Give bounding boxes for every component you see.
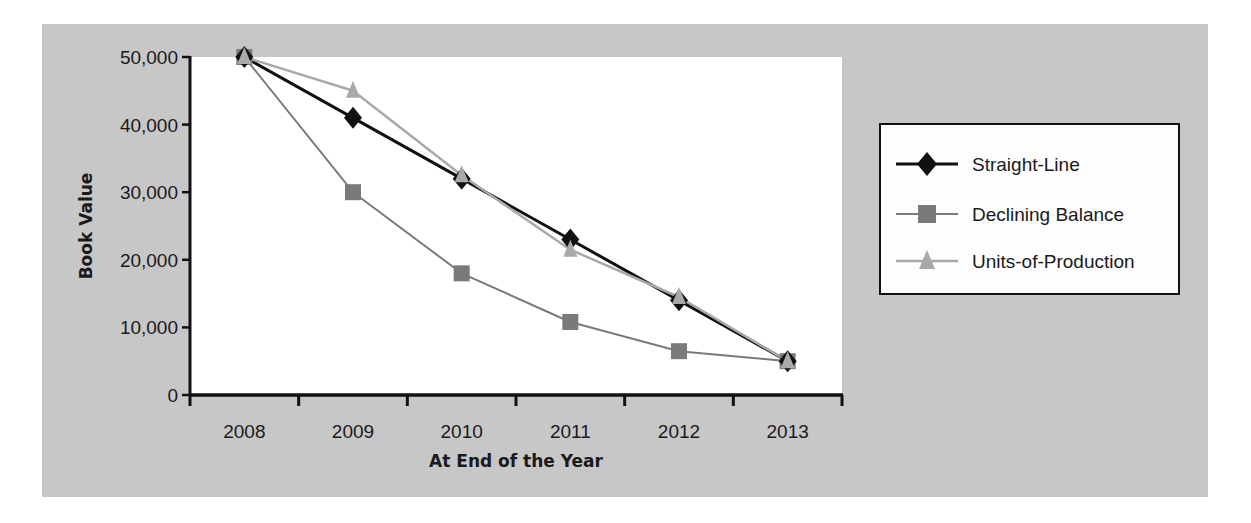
y-tick-label: 30,000 (120, 182, 178, 203)
y-axis: 010,00020,00030,00040,00050,000 (120, 47, 190, 406)
x-tick-label: 2012 (658, 421, 700, 442)
line-chart: 010,00020,00030,00040,00050,000 20082009… (0, 0, 1251, 523)
legend-label: Units-of-Production (972, 251, 1135, 272)
legend-item-declining-balance: Declining Balance (896, 204, 1124, 225)
y-tick-label: 10,000 (120, 317, 178, 338)
legend-label: Straight-Line (972, 154, 1080, 175)
legend-square-icon (918, 205, 936, 223)
x-axis-title: At End of the Year (429, 451, 603, 471)
y-tick-label: 50,000 (120, 47, 178, 68)
y-tick-label: 20,000 (120, 250, 178, 271)
y-axis-title: Book Value (76, 173, 96, 280)
x-tick-label: 2008 (223, 421, 265, 442)
x-tick-label: 2013 (767, 421, 809, 442)
y-tick-label: 40,000 (120, 115, 178, 136)
x-tick-label: 2009 (332, 421, 374, 442)
x-axis: 200820092010201120122013 (189, 395, 843, 442)
y-tick-label: 0 (167, 385, 178, 406)
square-marker-icon (671, 343, 687, 359)
legend-label: Declining Balance (972, 204, 1124, 225)
square-marker-icon (454, 265, 470, 281)
x-tick-label: 2011 (550, 421, 591, 442)
plot-area (190, 57, 842, 395)
square-marker-icon (562, 314, 578, 330)
square-marker-icon (345, 184, 361, 200)
legend: Straight-LineDeclining BalanceUnits-of-P… (880, 124, 1179, 294)
x-tick-label: 2010 (441, 421, 483, 442)
